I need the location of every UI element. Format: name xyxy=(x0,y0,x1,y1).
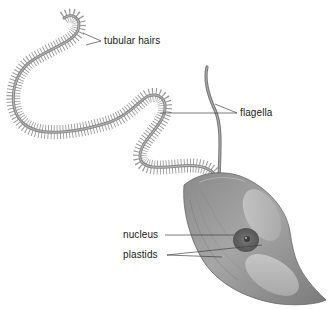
label-flagella: flagella xyxy=(240,107,273,119)
label-nucleus: nucleus xyxy=(123,229,158,241)
label-tubular-hairs: tubular hairs xyxy=(104,35,160,47)
label-plastids: plastids xyxy=(123,249,158,261)
cell-body xyxy=(184,173,326,305)
flagellate-diagram xyxy=(0,0,333,309)
whiplash-flagellum xyxy=(206,67,220,178)
nucleolus xyxy=(244,236,250,242)
